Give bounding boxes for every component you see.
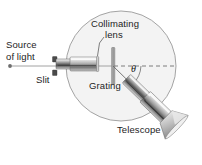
label-theta-angle: θ	[131, 63, 136, 74]
label-telescope: Telescope	[117, 124, 161, 135]
label-lens: lens	[105, 29, 123, 40]
label-slit: Slit	[36, 74, 50, 85]
collimating-lens	[97, 57, 99, 72]
slit-jaw-lower	[53, 70, 58, 76]
label-of-light: of light	[6, 51, 35, 62]
label-source: Source	[6, 39, 37, 50]
light-source-point	[8, 64, 12, 68]
label-grating: Grating	[89, 80, 121, 91]
grating-spectrometer-figure: Source of light Slit Collimating lens Gr…	[0, 0, 202, 165]
collimator-highlight	[71, 58, 97, 60]
label-collimating: Collimating	[91, 18, 139, 29]
